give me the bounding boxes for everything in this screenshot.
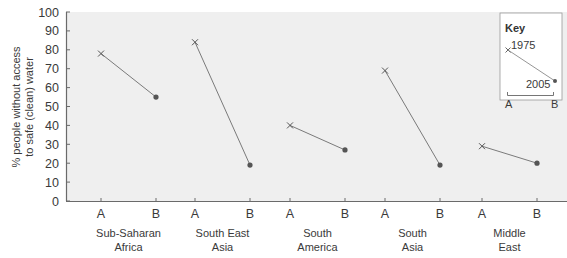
- x-tick-label-a: A: [191, 207, 200, 221]
- x-tick-label-b: B: [152, 207, 160, 221]
- y-tick-label: 10: [45, 176, 59, 190]
- chart: 0102030405060708090100 ABSub-SaharanAfri…: [0, 0, 567, 258]
- y-tick-label: 90: [45, 24, 59, 38]
- x-tick-label-a: A: [97, 207, 106, 221]
- dot-marker-icon: [534, 161, 539, 166]
- category-label: South East: [196, 227, 250, 239]
- x-axis: ABSub-SaharanAfricaABSouth EastAsiaABSou…: [66, 198, 567, 253]
- category-label: Middle: [493, 227, 525, 239]
- plot-background: [66, 12, 567, 201]
- y-tick-label: 0: [52, 195, 59, 209]
- legend-key: Key 1975 2005 A B: [500, 13, 562, 110]
- legend-axis-b: B: [551, 98, 558, 110]
- x-tick-label-b: B: [341, 207, 349, 221]
- y-tick-label: 70: [45, 62, 59, 76]
- plot-area: [66, 12, 567, 201]
- y-axis-label-line-2: to safe (clean) water: [23, 57, 35, 157]
- x-tick-label-a: A: [381, 207, 390, 221]
- category-label: South: [303, 227, 332, 239]
- category-label: Sub-Saharan: [96, 227, 161, 239]
- legend-axis-a: A: [505, 98, 513, 110]
- legend-title: Key: [505, 22, 526, 34]
- dot-marker-icon: [342, 147, 347, 152]
- category-label: East: [498, 241, 520, 253]
- y-tick-label: 50: [45, 100, 59, 114]
- y-tick-label: 20: [45, 157, 59, 171]
- y-tick-label: 100: [38, 6, 59, 20]
- y-tick-label: 40: [45, 119, 59, 133]
- y-axis: 0102030405060708090100: [38, 6, 70, 209]
- category-label: Asia: [402, 241, 424, 253]
- dot-marker-icon: [437, 162, 442, 167]
- category-label: Asia: [212, 241, 234, 253]
- y-tick-label: 60: [45, 81, 59, 95]
- y-axis-label: % people without access to safe (clean) …: [10, 46, 35, 168]
- y-axis-label-line-1: % people without access: [10, 46, 22, 168]
- legend-start-label: 1975: [511, 39, 535, 51]
- category-label: America: [297, 241, 338, 253]
- x-tick-label-b: B: [436, 207, 444, 221]
- legend-end-label: 2005: [526, 78, 550, 90]
- y-tick-label: 80: [45, 43, 59, 57]
- dot-marker-icon: [247, 162, 252, 167]
- category-label: South: [398, 227, 427, 239]
- category-label: Africa: [114, 241, 143, 253]
- x-tick-label-a: A: [478, 207, 487, 221]
- legend-dot-marker-icon: [553, 79, 557, 83]
- y-tick-label: 30: [45, 138, 59, 152]
- x-tick-label-a: A: [286, 207, 295, 221]
- dot-marker-icon: [153, 94, 158, 99]
- x-tick-label-b: B: [533, 207, 541, 221]
- x-tick-label-b: B: [246, 207, 254, 221]
